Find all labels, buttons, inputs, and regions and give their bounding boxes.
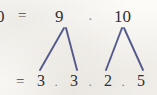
equals-sign-top: =: [18, 8, 26, 23]
multiplication-dot-top: ·: [88, 13, 93, 27]
factor-node-10: 10: [114, 8, 131, 25]
factor-tree-figure: 0 = 9 · 10 = 3 · 3 · 2 · 5: [0, 0, 157, 95]
prime-factor-2: 3: [70, 73, 78, 89]
factor-node-9: 9: [55, 8, 64, 25]
branch-9-right: [66, 28, 77, 70]
branch-9-left: [40, 28, 64, 70]
equals-sign-bottom: =: [16, 74, 24, 89]
multiplication-dot-3: ·: [121, 78, 125, 91]
multiplication-dot-1: ·: [54, 78, 58, 91]
prime-factor-3: 2: [104, 73, 112, 89]
prime-factor-4: 5: [137, 73, 145, 89]
multiplication-dot-2: ·: [88, 78, 92, 91]
branch-10-right: [124, 28, 143, 70]
product-value: 0: [0, 8, 5, 25]
branch-10-left: [106, 28, 122, 70]
prime-factor-1: 3: [37, 73, 45, 89]
